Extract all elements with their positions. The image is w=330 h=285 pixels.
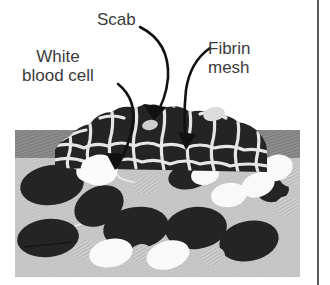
- right-border-rule: [317, 0, 319, 285]
- label-white-blood-cell-line2: blood cell: [22, 66, 94, 85]
- label-fibrin-mesh-line2: mesh: [208, 58, 250, 77]
- label-white-blood-cell-line1: White: [36, 47, 79, 66]
- label-fibrin-mesh: Fibrinmesh: [208, 39, 251, 77]
- wound-scab-diagram: [0, 0, 330, 285]
- label-white-blood-cell: Whiteblood cell: [22, 47, 94, 85]
- label-fibrin-mesh-line1: Fibrin: [208, 39, 251, 58]
- label-scab: Scab: [97, 10, 136, 29]
